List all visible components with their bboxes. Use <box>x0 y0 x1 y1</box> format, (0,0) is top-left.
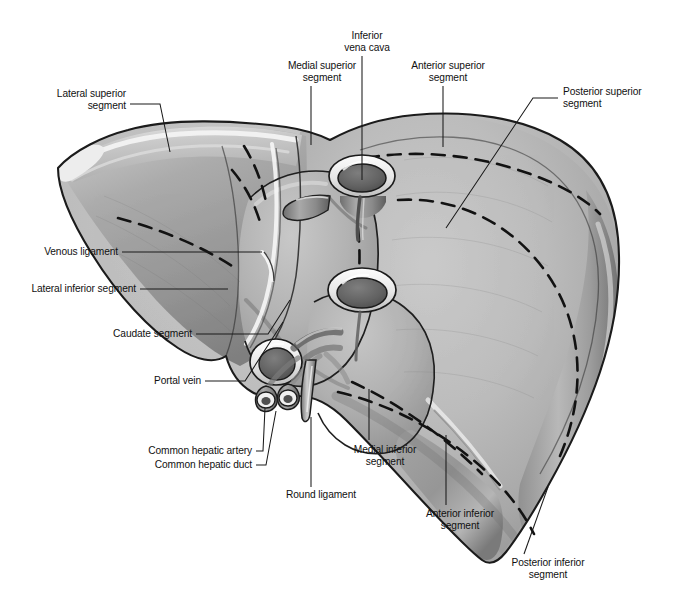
label-lateral-inferior-segment: Lateral inferior segment <box>10 283 136 295</box>
label-lateral-superior-segment: Lateral superior segment <box>22 88 126 112</box>
label-inferior-vena-cava: Inferior vena cava <box>327 30 407 54</box>
label-round-ligament: Round ligament <box>273 489 369 501</box>
label-venous-ligament: Venous ligament <box>22 246 118 258</box>
label-posterior-inferior-segment: Posterior inferior segment <box>492 557 604 581</box>
label-common-hepatic-artery: Common hepatic artery <box>128 445 252 457</box>
liver-anatomy-figure: Lateral superior segmentMedial superior … <box>0 0 674 615</box>
label-posterior-superior-segment: Posterior superior segment <box>563 86 674 110</box>
label-caudate-segment: Caudate segment <box>90 328 192 340</box>
leader-common-hepatic-artery <box>256 408 265 451</box>
label-anterior-superior-segment: Anterior superior segment <box>392 60 504 84</box>
label-anterior-inferior-segment: Anterior inferior segment <box>406 508 514 532</box>
leader-common-hepatic-duct <box>256 411 276 465</box>
label-portal-vein: Portal vein <box>133 375 201 387</box>
label-common-hepatic-duct: Common hepatic duct <box>136 459 252 471</box>
label-medial-inferior-segment: Medial inferior segment <box>335 444 435 468</box>
label-medial-superior-segment: Medial superior segment <box>270 60 374 84</box>
